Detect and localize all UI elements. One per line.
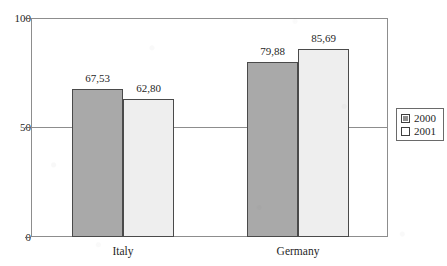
bar-label-italy-2001: 62,80 (123, 83, 174, 94)
legend-label-2001: 2001 (414, 126, 436, 137)
x-axis-label-italy: Italy (73, 245, 173, 257)
bar-chart: 100 50 0 67,53 62,80 Italy 79,88 85,69 G… (0, 0, 447, 266)
bar-italy-2001[interactable] (123, 99, 174, 237)
legend-item-2001[interactable]: 2001 (401, 125, 439, 137)
bar-label-germany-2000: 79,88 (247, 46, 298, 57)
bar-italy-2000[interactable] (72, 89, 123, 237)
bar-germany-2000[interactable] (247, 62, 298, 237)
bar-label-germany-2001: 85,69 (298, 33, 349, 44)
filled-square-icon (401, 114, 410, 123)
bar-germany-2001[interactable] (298, 49, 349, 237)
x-axis-label-germany: Germany (248, 245, 348, 257)
chart-legend: 2000 2001 (396, 108, 444, 141)
legend-label-2000: 2000 (414, 113, 436, 124)
bar-label-italy-2000: 67,53 (72, 73, 123, 84)
empty-square-icon (401, 127, 410, 136)
y-tick-mark-0 (25, 237, 31, 238)
legend-item-2000[interactable]: 2000 (401, 112, 439, 124)
